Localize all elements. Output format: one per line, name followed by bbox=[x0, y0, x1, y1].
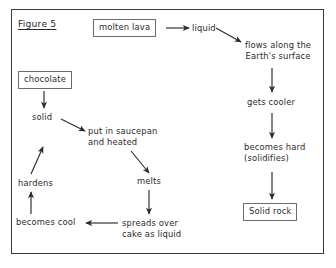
figure-diagram: Figure 5 bbox=[0, 0, 336, 268]
node-becomes-hard-solidifies: becomes hard (solidifies) bbox=[244, 142, 305, 163]
node-molten-lava: molten lava bbox=[93, 19, 156, 37]
node-solid-rock: Solid rock bbox=[243, 203, 297, 221]
node-spreads-over-cake-as-liquid: spreads over cake as liquid bbox=[122, 218, 181, 239]
figure-label: Figure 5 bbox=[18, 18, 56, 29]
node-gets-cooler: gets cooler bbox=[247, 97, 295, 108]
node-solid: solid bbox=[32, 112, 52, 123]
node-liquid: liquid bbox=[192, 23, 216, 34]
node-melts: melts bbox=[137, 176, 161, 187]
node-hardens: hardens bbox=[18, 178, 53, 189]
node-chocolate: chocolate bbox=[18, 71, 72, 89]
node-flows-along-earths-surface: flows along the Earth's surface bbox=[245, 40, 311, 61]
node-put-in-saucepan-and-heated: put in saucepan and heated bbox=[88, 126, 157, 147]
node-becomes-cool: becomes cool bbox=[16, 217, 76, 228]
